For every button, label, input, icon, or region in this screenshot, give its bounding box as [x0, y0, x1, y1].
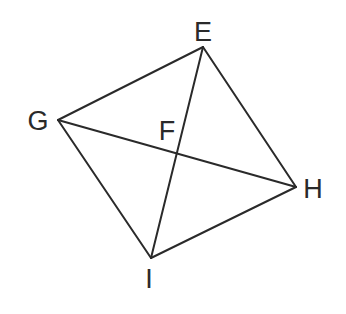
diagonal-GH	[58, 120, 296, 187]
label-G: G	[27, 106, 48, 136]
label-I: I	[145, 264, 153, 294]
geometry-diagram: E G H I F	[0, 0, 346, 314]
label-E: E	[194, 17, 212, 47]
label-H: H	[303, 174, 323, 204]
segment-GE	[58, 47, 203, 120]
label-F: F	[159, 116, 176, 146]
segment-IG	[58, 120, 151, 258]
segment-EH	[203, 47, 296, 187]
segment-HI	[151, 187, 296, 258]
